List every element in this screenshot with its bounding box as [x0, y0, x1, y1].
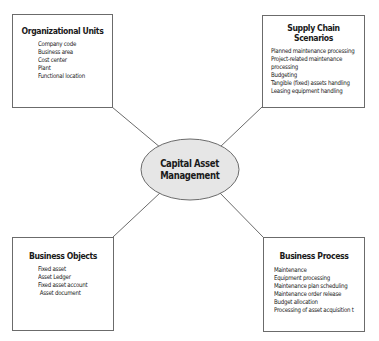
list-item: Plant — [38, 64, 102, 72]
list-item: Processing of asset acquisition t — [274, 306, 351, 314]
box-item-list: Maintenance Equipment processing Mainten… — [274, 266, 351, 314]
list-item: Asset document — [38, 289, 103, 297]
box-item-list: Fixed asset Asset Ledger Fixed asset acc… — [38, 265, 103, 297]
list-item: Budget allocation — [274, 298, 351, 306]
list-item: Leasing equipment handling — [271, 87, 351, 95]
list-item: Equipment processing — [274, 274, 351, 282]
box-item-list: Company code Business area Cost center P… — [38, 40, 102, 80]
center-label-line2: Management — [160, 170, 219, 182]
box-title: Business Process — [271, 251, 357, 261]
box-business-objects: Business Objects Fixed asset Asset Ledge… — [12, 237, 114, 331]
box-title: Business Objects — [20, 251, 106, 261]
box-title: Organizational Units — [20, 26, 105, 36]
list-item: Maintenance — [274, 266, 351, 274]
box-organizational-units: Organizational Units Company code Busine… — [12, 14, 113, 108]
list-item: Business area — [38, 48, 102, 56]
list-item: Project-related maintenance — [271, 55, 351, 63]
list-item: Cost center — [38, 56, 102, 64]
list-item: Tangible (fixed) assets handling — [271, 79, 351, 87]
capital-asset-management-diagram: Capital Asset Management Organizational … — [0, 0, 379, 341]
list-item: Company code — [38, 40, 102, 48]
list-item: Planned maintenance processing — [271, 47, 351, 55]
box-title-line1: Supply Chain — [270, 23, 357, 33]
list-item: Asset Ledger — [38, 273, 103, 281]
list-item: processing — [271, 63, 351, 71]
list-item: Fixed asset — [38, 265, 103, 273]
list-item: Fixed asset account — [38, 281, 103, 289]
box-supply-chain-scenarios: Supply Chain Scenarios Planned maintenan… — [262, 15, 365, 108]
list-item: Maintenance order release — [274, 290, 351, 298]
box-title-line2: Scenarios — [270, 33, 357, 43]
center-node-label: Capital Asset Management — [141, 139, 239, 200]
box-business-process: Business Process Maintenance Equipment p… — [263, 237, 365, 332]
list-item: Maintenance plan scheduling — [274, 282, 351, 290]
list-item: Functional location — [38, 72, 102, 80]
list-item: Budgeting — [271, 71, 351, 79]
box-item-list: Planned maintenance processing Project-r… — [271, 47, 351, 95]
center-label-line1: Capital Asset — [161, 158, 220, 170]
